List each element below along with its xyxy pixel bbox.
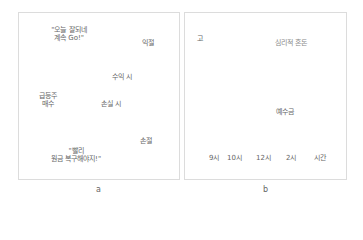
buy-node-line2: 매수 [33, 100, 63, 108]
panel-b-caption: b [263, 185, 268, 194]
loss-node-label: 손절 [134, 137, 158, 145]
profit-node-label: 익절 [136, 39, 160, 47]
loss-quote-line1: "빨리 [46, 147, 106, 155]
loss-quote: "빨리 원금 복구해야지!" [46, 147, 106, 163]
loss-edge-label: 손실 시 [101, 100, 121, 108]
y-axis-label: 고 [197, 35, 203, 43]
profit-edge-label: 수익 시 [112, 73, 132, 81]
x-tick-12: 12시 [256, 154, 271, 162]
deposit-curve-label: 예수금 [276, 108, 294, 116]
loss-quote-line2: 원금 복구해야지!" [46, 155, 106, 163]
profit-quote-line2: 계속 Go!" [44, 34, 94, 42]
profit-quote: "오늘 잘되네 계속 Go!" [44, 26, 94, 42]
panel-a-caption: a [96, 185, 101, 194]
x-tick-2: 2시 [286, 154, 296, 162]
x-tick-9: 9시 [209, 154, 219, 162]
confusion-curve-label: 심리적 혼돈 [275, 39, 307, 47]
buy-node-line1: 급등주 [33, 92, 63, 100]
buy-node-label: 급등주 매수 [33, 92, 63, 108]
x-tick-10: 10시 [227, 154, 242, 162]
x-axis-label: 시간 [314, 154, 326, 162]
profit-quote-line1: "오늘 잘되네 [44, 26, 94, 34]
